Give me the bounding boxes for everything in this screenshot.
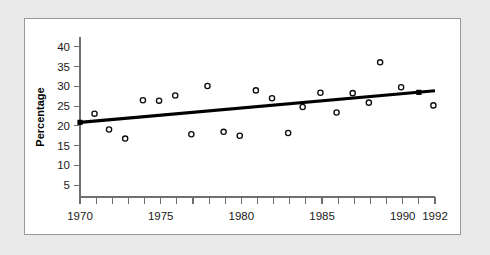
data-point	[123, 136, 128, 141]
x-axis-ticks	[80, 197, 435, 204]
y-tick-label: 35	[57, 61, 70, 73]
data-point	[350, 91, 355, 96]
trend-line-segment	[80, 91, 435, 123]
trend-line-knot	[416, 90, 421, 95]
trend-line-knot	[77, 120, 82, 125]
data-point	[318, 90, 323, 95]
data-point	[378, 60, 383, 65]
data-point	[237, 133, 242, 138]
data-point	[106, 127, 111, 132]
data-point	[431, 103, 436, 108]
y-axis: 510152025303540	[57, 37, 80, 197]
y-axis-tick-labels: 510152025303540	[57, 41, 70, 191]
y-tick-label: 30	[57, 80, 70, 92]
data-point	[253, 88, 258, 93]
x-tick-label: 1990	[390, 210, 416, 222]
data-point	[205, 83, 210, 88]
data-point	[269, 96, 274, 101]
x-tick-label: 1992	[422, 210, 448, 222]
y-axis-ticks	[74, 47, 80, 185]
y-tick-label: 40	[57, 41, 70, 53]
data-point	[366, 100, 371, 105]
data-point	[140, 98, 145, 103]
y-tick-label: 10	[57, 159, 70, 171]
figure-root: 510152025303540 197019751980198519901992…	[0, 0, 490, 255]
data-point	[156, 98, 161, 103]
data-point	[334, 110, 339, 115]
scatter-chart: 510152025303540 197019751980198519901992…	[25, 19, 460, 234]
y-tick-label: 15	[57, 140, 70, 152]
x-tick-label: 1970	[67, 210, 93, 222]
chart-panel: 510152025303540 197019751980198519901992…	[24, 18, 461, 235]
data-point	[173, 93, 178, 98]
data-point	[92, 111, 97, 116]
trend-line	[77, 90, 435, 125]
data-point	[286, 130, 291, 135]
x-axis: 197019751980198519901992	[67, 197, 448, 222]
y-tick-label: 5	[64, 179, 70, 191]
data-point	[300, 104, 305, 109]
x-tick-label: 1985	[309, 210, 335, 222]
y-tick-label: 20	[57, 120, 70, 132]
data-point	[221, 129, 226, 134]
x-tick-label: 1980	[229, 210, 255, 222]
data-point	[189, 132, 194, 137]
y-axis-title: Percentage	[34, 87, 46, 146]
data-points	[92, 60, 436, 141]
y-tick-label: 25	[57, 100, 70, 112]
x-tick-label: 1975	[148, 210, 174, 222]
data-point	[399, 85, 404, 90]
x-axis-tick-labels: 197019751980198519901992	[67, 210, 448, 222]
